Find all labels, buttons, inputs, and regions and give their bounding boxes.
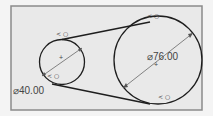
tangent-constraint-icon[interactable]: < ○ — [56, 30, 68, 37]
small-center-mark: + — [59, 54, 63, 61]
large-center-mark: + — [154, 61, 158, 68]
tangent-constraint-icon[interactable]: < ○ — [147, 12, 159, 19]
large-circle-diameter-label[interactable]: ⌀76.00 — [147, 51, 178, 62]
small-circle-diameter-label[interactable]: ⌀40.00 — [13, 85, 44, 96]
sketch-canvas[interactable]: + + ⌀40.00 ⌀76.00 < ○ < ○ < ○ < ○ — [0, 0, 213, 116]
tangent-constraint-icon[interactable]: < ○ — [158, 93, 170, 100]
tangent-constraint-icon[interactable]: < ○ — [47, 72, 59, 79]
